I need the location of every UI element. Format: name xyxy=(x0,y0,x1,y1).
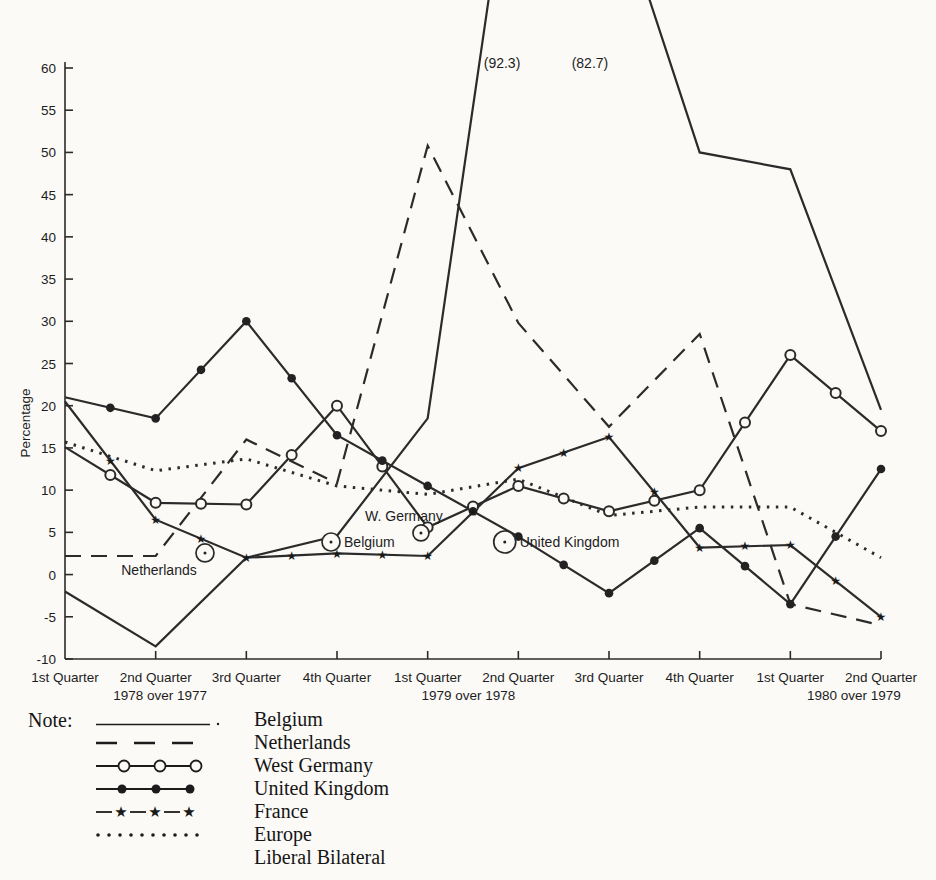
series-united-kingdom-marker xyxy=(333,431,342,440)
y-tick-label: 35 xyxy=(41,272,56,287)
y-tick-label: 50 xyxy=(41,145,56,160)
series-united-kingdom-marker xyxy=(831,532,840,541)
series-united-kingdom-marker xyxy=(151,414,160,423)
legend-item-europe: Europe xyxy=(94,823,389,846)
series-france-marker: ★ xyxy=(105,454,116,468)
series-france-marker: ★ xyxy=(649,485,660,499)
y-tick-label: 0 xyxy=(48,568,56,583)
series-united-kingdom-marker xyxy=(197,366,206,375)
x-tick-label: 3rd Quarter xyxy=(212,670,282,685)
y-tick-label: 60 xyxy=(41,61,56,76)
legend: Note: Belgium Netherlands xyxy=(28,708,389,869)
series-west-germany-marker xyxy=(196,499,206,509)
series-belgium-line xyxy=(65,0,881,646)
series-united-kingdom-marker xyxy=(695,524,704,533)
series-united-kingdom-marker xyxy=(559,561,568,570)
series-france-marker: ★ xyxy=(513,461,524,475)
dot-marker-line-swatch-icon xyxy=(94,780,226,798)
x-tick-label: 2nd Quarter xyxy=(120,670,193,685)
callout-center-dot-icon xyxy=(419,531,422,534)
series-west-germany-marker xyxy=(513,481,523,491)
series-united-kingdom-marker xyxy=(877,465,886,474)
svg-text:★: ★ xyxy=(148,803,161,821)
series-west-germany-marker xyxy=(740,418,750,428)
dotted-line-swatch-icon xyxy=(94,826,226,844)
series-france-marker: ★ xyxy=(286,549,297,563)
legend-item-west-germany: West Germany xyxy=(94,754,389,777)
x-tick-label: 2nd Quarter xyxy=(482,670,555,685)
solid-line-swatch-icon xyxy=(94,711,226,729)
series-west-germany-marker xyxy=(559,494,569,504)
y-tick-label: 15 xyxy=(41,441,56,456)
series-france-marker: ★ xyxy=(377,548,388,562)
series-west-germany-marker xyxy=(604,506,614,516)
series-france-marker: ★ xyxy=(740,539,751,553)
series-united-kingdom-marker xyxy=(786,600,795,609)
legend-item-france: ★ ★ ★ France xyxy=(94,800,389,823)
series-france-marker: ★ xyxy=(604,430,615,444)
series-west-germany-marker xyxy=(151,498,161,508)
series-west-germany-marker xyxy=(785,350,795,360)
y-axis-title: Percentage xyxy=(18,388,33,457)
callout-center-dot-icon xyxy=(330,540,333,543)
x-tick-label: 3rd Quarter xyxy=(574,670,644,685)
series-united-kingdom-marker xyxy=(650,556,659,565)
legend-item-label: Liberal Bilateral xyxy=(254,846,386,869)
x-tick-label: 4th Quarter xyxy=(303,670,372,685)
x-tick-label: 1st Quarter xyxy=(394,670,462,685)
series-united-kingdom-marker xyxy=(741,562,750,571)
legend-item-europe-line2: Liberal Bilateral xyxy=(94,846,389,869)
series-united-kingdom-marker xyxy=(106,404,115,413)
series-west-germany-marker xyxy=(695,485,705,495)
y-tick-label: 30 xyxy=(41,314,56,329)
y-tick-label: -5 xyxy=(44,610,56,625)
x-year-label: 1978 over 1977 xyxy=(113,688,207,702)
series-france-marker: ★ xyxy=(694,541,705,555)
legend-item-label: Netherlands xyxy=(254,731,351,754)
callout-label-united-kingdom: United Kingdom xyxy=(520,534,620,550)
legend-item-netherlands: Netherlands xyxy=(94,731,389,754)
legend-item-label: Belgium xyxy=(254,708,323,731)
series-france-marker: ★ xyxy=(150,513,161,527)
series-west-germany-marker xyxy=(105,470,115,480)
legend-item-united-kingdom: United Kingdom xyxy=(94,777,389,800)
series-france-marker: ★ xyxy=(876,610,887,624)
circle-marker-line-swatch-icon xyxy=(94,757,226,775)
y-tick-label: 10 xyxy=(41,483,56,498)
series-west-germany-marker xyxy=(332,401,342,411)
svg-text:★: ★ xyxy=(182,803,195,821)
series-west-germany-marker xyxy=(876,426,886,436)
series-west-germany-marker xyxy=(241,499,251,509)
y-tick-label: 5 xyxy=(48,525,56,540)
x-tick-label: 2nd Quarter xyxy=(845,670,918,685)
legend-item-belgium: Belgium xyxy=(94,708,389,731)
series-france-marker: ★ xyxy=(468,505,479,519)
callout-label-belgium: Belgium xyxy=(344,534,395,550)
dashed-line-swatch-icon xyxy=(94,734,226,752)
series-united-kingdom-marker xyxy=(287,374,296,383)
series-west-germany-marker xyxy=(831,388,841,398)
callout-center-dot-icon xyxy=(503,540,506,543)
series-france-marker: ★ xyxy=(422,549,433,563)
legend-rows: Belgium Netherlands West Germany xyxy=(94,708,389,869)
offscale-value-annotation: (82.7) xyxy=(572,55,609,71)
x-tick-label: 1st Quarter xyxy=(757,670,825,685)
legend-item-label: Europe xyxy=(254,823,312,846)
legend-item-label: United Kingdom xyxy=(254,777,389,800)
x-tick-label: 4th Quarter xyxy=(666,670,735,685)
x-tick-label: 1st Quarter xyxy=(31,670,99,685)
series-france-marker: ★ xyxy=(830,574,841,588)
offscale-value-annotation: (92.3) xyxy=(484,55,521,71)
svg-text:★: ★ xyxy=(114,803,127,821)
line-chart: 605550454035302520151050-5-101st Quarter… xyxy=(0,0,936,702)
callout-label-w-germany: W. Germany xyxy=(365,508,443,524)
series-france-marker: ★ xyxy=(558,446,569,460)
series-united-kingdom-marker xyxy=(423,482,432,491)
y-tick-label: 25 xyxy=(41,357,56,372)
callout-center-dot-icon xyxy=(203,551,206,554)
series-united-kingdom-marker xyxy=(378,456,387,465)
legend-item-label: France xyxy=(254,800,308,823)
x-year-label: 1980 over 1979 xyxy=(807,688,901,702)
legend-note-label: Note: xyxy=(28,708,94,732)
y-tick-label: 55 xyxy=(41,103,56,118)
